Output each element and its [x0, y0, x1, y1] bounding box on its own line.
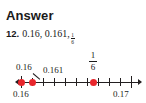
tick-mark [131, 76, 132, 88]
problem-number: 12. [6, 28, 19, 39]
tick-mark [65, 78, 66, 86]
inline-fraction-one-sixth: 1 6 [71, 33, 75, 45]
tick-mark [98, 78, 99, 86]
problem-values: 0.16, 0.161, [22, 28, 70, 39]
fraction-denominator: 6 [91, 63, 96, 72]
problem-answer-line: 12. 0.16, 0.161, 1 6 [6, 28, 75, 41]
fraction-numerator: 1 [91, 51, 96, 60]
answer-key-page: Answer 12. 0.16, 0.161, 1 6 [0, 0, 146, 103]
axis-end-label-right: 0.17 [113, 89, 129, 99]
plotted-point [18, 79, 25, 86]
axis-end-label-left: 0.16 [13, 89, 29, 99]
plotted-point [90, 79, 97, 86]
tick-mark [43, 78, 44, 86]
tick-mark [54, 78, 55, 86]
tick-mark [76, 78, 77, 86]
tick-mark [87, 78, 88, 86]
point-label-0-161: 0.161 [43, 65, 63, 75]
tick-mark [109, 78, 110, 86]
number-line-diagram: 0.16 0.161 1 6 0.16 0.17 [0, 46, 146, 103]
point-label-0-16-above: 0.16 [16, 62, 32, 72]
page-title: Answer [6, 9, 54, 22]
point-label-one-sixth: 1 6 [89, 51, 97, 72]
plotted-point [29, 79, 36, 86]
tick-mark [120, 78, 121, 86]
inline-fraction-denominator: 6 [71, 40, 74, 45]
axis-arrow-right-icon [138, 79, 142, 85]
